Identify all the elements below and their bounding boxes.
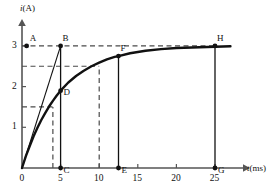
- marked-point-a: [24, 44, 29, 49]
- x-axis-label: t(ms): [247, 164, 266, 173]
- marked-point-h: [213, 44, 218, 49]
- marked-point-c: [58, 166, 63, 171]
- x-tick-label-25: 25: [210, 174, 220, 184]
- x-tick-label-10: 10: [94, 174, 104, 184]
- point-label-e: E: [122, 166, 128, 175]
- solid-vertical-droplines: [61, 46, 215, 168]
- marked-point-g: [213, 166, 218, 171]
- marked-point-e: [116, 166, 121, 171]
- marked-point-b: [58, 44, 63, 49]
- point-label-h: H: [217, 34, 224, 43]
- y-tick-label-3: 3: [12, 41, 17, 51]
- x-tick-label-15: 15: [133, 174, 143, 184]
- point-label-f: F: [121, 44, 126, 53]
- point-label-b: B: [63, 34, 69, 43]
- x-tick-label-5: 5: [58, 174, 63, 184]
- marked-point-f: [116, 54, 121, 59]
- figure-container: i(A) t(ms) 0510152025123ABCDEFGH: [0, 0, 272, 194]
- point-label-a: A: [30, 34, 37, 43]
- point-label-g: G: [218, 166, 225, 175]
- x-axis-label-unit: (ms): [250, 163, 267, 173]
- y-axis-label-unit: (A): [23, 3, 36, 13]
- x-tick-label-20: 20: [171, 174, 181, 184]
- marked-point-d: [58, 88, 63, 93]
- y-tick-label-1: 1: [12, 122, 17, 132]
- current-vs-time-chart: [0, 0, 272, 194]
- y-tick-label-2: 2: [12, 82, 17, 92]
- point-label-c: C: [64, 166, 70, 175]
- point-label-d: D: [64, 88, 71, 97]
- y-axis-arrow: [18, 19, 26, 26]
- x-tick-label-0: 0: [19, 174, 24, 184]
- y-axis-label: i(A): [20, 4, 35, 13]
- dashed-vertical-guides: [53, 66, 99, 168]
